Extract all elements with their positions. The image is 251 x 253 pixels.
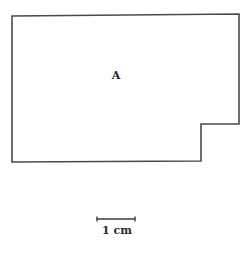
diagram-canvas xyxy=(0,0,251,253)
shape-label: A xyxy=(108,70,124,82)
scale-bar-label: 1 cm xyxy=(92,225,142,237)
shape-a-outline xyxy=(12,14,239,162)
scale-bar xyxy=(97,217,135,222)
